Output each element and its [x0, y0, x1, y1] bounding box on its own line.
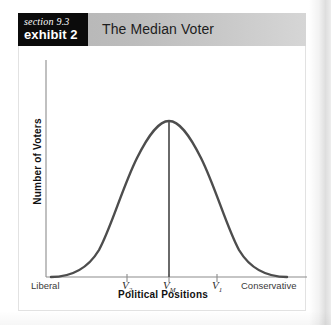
bell-curve-svg	[19, 46, 307, 311]
exhibit-badge: section 9.3 exhibit 2	[18, 13, 88, 46]
badge-exhibit-label: exhibit 2	[24, 27, 78, 42]
x-axis-label: Political Positions	[19, 289, 307, 300]
exhibit-figure: section 9.3 exhibit 2 The Median Voter N…	[0, 0, 331, 325]
exhibit-title: The Median Voter	[102, 21, 214, 37]
chart-plot-area: Number of Voters Liberal V2 VM V1	[19, 46, 307, 311]
page-edge-shadow-right	[309, 0, 331, 325]
badge-section-label: section 9.3	[24, 16, 70, 27]
page-edge-shadow-bottom	[0, 311, 331, 325]
y-axis-label: Number of Voters	[32, 92, 43, 232]
exhibit-header: section 9.3 exhibit 2 The Median Voter	[18, 13, 306, 46]
chart-panel: Number of Voters Liberal V2 VM V1	[18, 46, 306, 311]
